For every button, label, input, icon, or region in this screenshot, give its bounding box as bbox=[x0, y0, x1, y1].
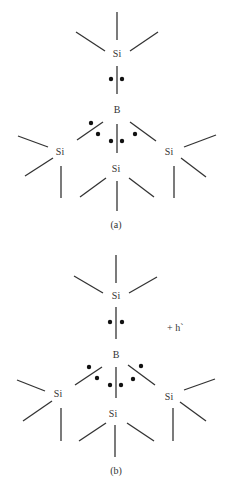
middle-si-group: Si bbox=[79, 408, 154, 457]
b-left-si-bond bbox=[75, 367, 102, 385]
atom-boron: B bbox=[113, 349, 120, 360]
bond-line bbox=[184, 379, 215, 390]
atom-top-si: Si bbox=[112, 290, 121, 301]
bond-line bbox=[18, 136, 48, 147]
atom-middle-si: Si bbox=[109, 408, 118, 419]
hole-annotation: + h` bbox=[167, 322, 183, 333]
atom-boron: B bbox=[114, 104, 121, 115]
electron-dot bbox=[120, 320, 124, 324]
electron-dot bbox=[109, 77, 113, 81]
top-si-group: Si bbox=[76, 12, 158, 59]
panel-a: Si B Si Si bbox=[18, 12, 216, 231]
bond-line bbox=[129, 178, 154, 197]
bond-line bbox=[127, 423, 154, 441]
electron-dot bbox=[89, 121, 93, 125]
left-si-group: Si bbox=[17, 380, 62, 441]
bond-line bbox=[25, 158, 53, 176]
bond-line bbox=[17, 380, 45, 391]
electron-dot bbox=[95, 376, 99, 380]
right-si-group: Si bbox=[165, 379, 215, 441]
electron-dot bbox=[120, 139, 124, 143]
caption-a: (a) bbox=[110, 219, 121, 231]
bond-line bbox=[129, 277, 157, 293]
atom-middle-si: Si bbox=[112, 163, 121, 174]
bond-line bbox=[76, 32, 105, 51]
bond-line bbox=[80, 178, 106, 197]
electron-dot bbox=[109, 139, 113, 143]
electron-dot bbox=[119, 383, 123, 387]
bond-line bbox=[184, 135, 216, 147]
bond-line bbox=[23, 401, 52, 421]
bond-line bbox=[79, 423, 106, 441]
right-si-group: Si bbox=[165, 135, 216, 198]
electron-dot bbox=[87, 365, 91, 369]
atom-top-si: Si bbox=[113, 48, 122, 59]
caption-b: (b) bbox=[110, 465, 122, 477]
atom-left-si: Si bbox=[56, 146, 65, 157]
b-right-si-bond bbox=[130, 122, 156, 141]
electron-dot bbox=[133, 132, 137, 136]
bond-line bbox=[130, 32, 158, 51]
electron-dot bbox=[120, 77, 124, 81]
lewis-diagram: Si B Si Si bbox=[0, 0, 230, 487]
bond-line bbox=[181, 158, 206, 177]
panel-b: Si + h` B Si Si bbox=[17, 255, 215, 477]
top-si-group: Si bbox=[74, 255, 157, 301]
electron-dot bbox=[108, 320, 112, 324]
bond-line bbox=[180, 402, 206, 421]
atom-right-si: Si bbox=[165, 146, 174, 157]
electron-dot bbox=[131, 377, 135, 381]
electron-dot bbox=[96, 132, 100, 136]
electron-dot bbox=[139, 364, 143, 368]
left-si-group: Si bbox=[18, 136, 64, 198]
bond-line bbox=[74, 276, 103, 293]
atom-left-si: Si bbox=[54, 388, 63, 399]
middle-si-group: Si bbox=[80, 163, 154, 211]
atom-right-si: Si bbox=[165, 391, 174, 402]
electron-dot bbox=[108, 383, 112, 387]
